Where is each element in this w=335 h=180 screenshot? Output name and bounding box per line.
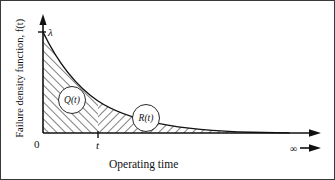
- region-label-qt: Q(t): [58, 86, 86, 114]
- figure-container: Failure density function, f(t) Operating…: [0, 0, 335, 180]
- y-axis-title: Failure density function, f(t): [15, 18, 26, 138]
- lambda-tick-label: λ: [48, 27, 53, 38]
- infinity-tick-label: ∞: [290, 144, 297, 154]
- t-tick-label: t: [96, 140, 99, 151]
- infinity-arrow: [300, 144, 321, 152]
- region-label-rt: R(t): [132, 104, 160, 132]
- x-axis-title: Operating time: [109, 159, 178, 171]
- origin-tick-label: 0: [34, 139, 40, 150]
